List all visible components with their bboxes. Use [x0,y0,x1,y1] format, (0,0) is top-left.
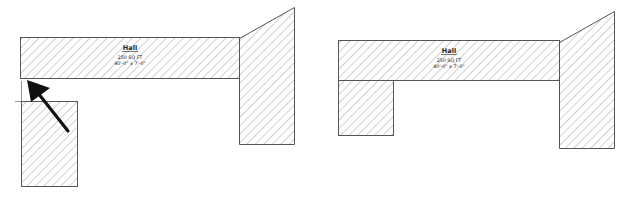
right-wing-room[interactable] [560,12,615,149]
floor-plan-diagram: Hall 250 SQ FT 40'-0" x 7'-0" Hall 250 S… [0,0,638,200]
lower-room[interactable] [22,102,78,187]
hall-area: 250 SQ FT [437,58,462,63]
hall-name: Hall [442,47,456,55]
hall-dimensions: 40'-0" x 7'-0" [114,61,146,66]
panel-before: Hall 250 SQ FT 40'-0" x 7'-0" [15,8,295,187]
hall-dimensions: 40'-0" x 7'-0" [433,64,465,69]
panel-after: Hall 250 SQ FT 40'-0" x 7'-0" [339,12,615,149]
hall-name: Hall [123,44,137,52]
hall-area: 250 SQ FT [118,55,143,60]
right-wing-room[interactable] [240,8,295,145]
lower-room[interactable] [339,81,394,136]
